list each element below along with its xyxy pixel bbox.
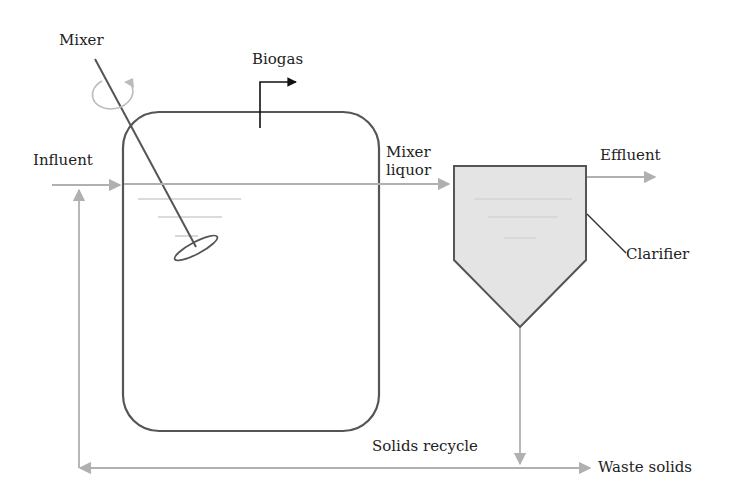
clarifier-leader-line (587, 214, 626, 253)
waste-solids-label: Waste solids (598, 459, 692, 476)
clarifier-label: Clarifier (626, 246, 689, 263)
liquid-level-lines (138, 199, 241, 236)
mixer-icon (92, 59, 220, 265)
effluent-label: Effluent (600, 147, 661, 164)
process-diagram (0, 0, 733, 491)
mixer-liquor-label-line1: Mixer (386, 144, 431, 161)
biogas-arrow-icon (260, 82, 296, 128)
rotation-arrow-icon (92, 81, 132, 109)
solids-recycle-label: Solids recycle (372, 438, 478, 455)
reactor-tank (123, 112, 379, 431)
mixer-label: Mixer (59, 32, 104, 49)
biogas-label: Biogas (252, 51, 303, 68)
mixer-liquor-label-line2: liquor (386, 162, 431, 179)
clarifier-tank (454, 166, 586, 327)
influent-label: Influent (33, 152, 93, 169)
